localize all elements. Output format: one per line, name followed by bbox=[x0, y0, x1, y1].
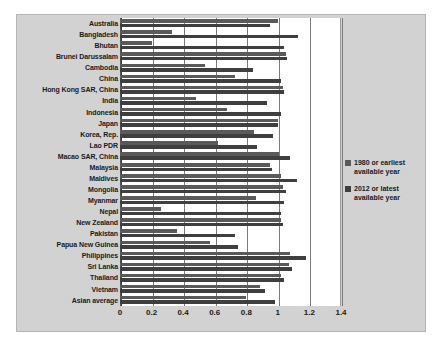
bar-vietnam-series-1 bbox=[120, 289, 265, 293]
legend-item-0: 1980 or earliest available year bbox=[345, 158, 425, 176]
bar-bhutan-series-1 bbox=[120, 46, 284, 50]
category-label-papua-new-guinea: Papua New Guinea bbox=[18, 239, 118, 250]
bar-vietnam-series-0 bbox=[120, 285, 260, 289]
bar-pakistan-series-1 bbox=[120, 234, 235, 238]
bar-row bbox=[120, 140, 341, 151]
category-label-japan: Japan bbox=[18, 118, 118, 129]
bar-row bbox=[120, 195, 341, 206]
bar-indonesia-series-0 bbox=[120, 108, 227, 112]
category-label-indonesia: Indonesia bbox=[18, 107, 118, 118]
category-label-india: India bbox=[18, 95, 118, 106]
bar-lao-pdr-series-1 bbox=[120, 145, 257, 149]
bar-row bbox=[120, 73, 341, 84]
bar-row bbox=[120, 40, 341, 51]
bar-row bbox=[120, 184, 341, 195]
bar-maldives-series-1 bbox=[120, 179, 297, 183]
x-tick-0.2: 0.2 bbox=[146, 308, 157, 317]
legend-swatch-icon bbox=[345, 186, 351, 192]
bar-row bbox=[120, 272, 341, 283]
category-label-korea-rep-: Korea, Rep. bbox=[18, 129, 118, 140]
bar-macao-sar-china-series-1 bbox=[120, 156, 290, 160]
bar-row bbox=[120, 239, 341, 250]
category-label-sri-lanka: Sri Lanka bbox=[18, 261, 118, 272]
bar-thailand-series-0 bbox=[120, 274, 281, 278]
bar-row bbox=[120, 107, 341, 118]
bar-row bbox=[120, 217, 341, 228]
bar-row bbox=[120, 129, 341, 140]
category-label-brunei-darussalam: Brunei Darussalam bbox=[18, 51, 118, 62]
bar-papua-new-guinea-series-1 bbox=[120, 245, 238, 249]
bar-india-series-0 bbox=[120, 97, 196, 101]
bar-row bbox=[120, 173, 341, 184]
bar-korea-rep--series-0 bbox=[120, 130, 254, 134]
category-label-australia: Australia bbox=[18, 18, 118, 29]
bar-row bbox=[120, 95, 341, 106]
category-label-mongolia: Mongolia bbox=[18, 184, 118, 195]
bar-maldives-series-0 bbox=[120, 174, 281, 178]
bar-mongolia-series-0 bbox=[120, 185, 283, 189]
category-axis-labels: AustraliaBangladeshBhutanBrunei Darussal… bbox=[18, 18, 118, 306]
bar-philippines-series-0 bbox=[120, 252, 290, 256]
bar-india-series-1 bbox=[120, 101, 267, 105]
bar-papua-new-guinea-series-0 bbox=[120, 241, 210, 245]
bar-new-zealand-series-1 bbox=[120, 223, 283, 227]
bar-japan-series-0 bbox=[120, 119, 278, 123]
bar-macao-sar-china-series-0 bbox=[120, 152, 279, 156]
chart-legend: 1980 or earliest available year2012 or l… bbox=[345, 158, 425, 210]
bar-new-zealand-series-0 bbox=[120, 218, 281, 222]
legend-item-1: 2012 or latest available year bbox=[345, 184, 425, 202]
bar-asian-average-series-1 bbox=[120, 300, 275, 304]
bar-row bbox=[120, 84, 341, 95]
category-label-macao-sar-china: Macao SAR, China bbox=[18, 151, 118, 162]
x-axis-tick-labels: 00.20.40.60.811.21.4 bbox=[120, 308, 341, 322]
bar-philippines-series-1 bbox=[120, 256, 306, 260]
bar-china-series-0 bbox=[120, 75, 235, 79]
bar-row bbox=[120, 284, 341, 295]
category-label-bangladesh: Bangladesh bbox=[18, 29, 118, 40]
bar-nepal-series-1 bbox=[120, 212, 281, 216]
bar-row bbox=[120, 51, 341, 62]
bar-mongolia-series-1 bbox=[120, 190, 286, 194]
legend-label: 1980 or earliest available year bbox=[354, 158, 405, 176]
category-label-pakistan: Pakistan bbox=[18, 228, 118, 239]
bar-malaysia-series-1 bbox=[120, 168, 272, 172]
bar-brunei-darussalam-series-0 bbox=[120, 52, 286, 56]
x-tick-0: 0 bbox=[118, 308, 122, 317]
bar-row bbox=[120, 250, 341, 261]
bar-nepal-series-0 bbox=[120, 207, 161, 211]
category-label-asian-average: Asian average bbox=[18, 295, 118, 306]
category-label-myanmar: Myanmar bbox=[18, 195, 118, 206]
category-label-nepal: Nepal bbox=[18, 206, 118, 217]
category-label-hong-kong-sar-china: Hong Kong SAR, China bbox=[18, 84, 118, 95]
category-label-cambodia: Cambodia bbox=[18, 62, 118, 73]
bar-chart-figure: AustraliaBangladeshBhutanBrunei Darussal… bbox=[0, 0, 441, 346]
bar-row bbox=[120, 162, 341, 173]
category-label-maldives: Maldives bbox=[18, 173, 118, 184]
category-label-philippines: Philippines bbox=[18, 250, 118, 261]
category-label-lao-pdr: Lao PDR bbox=[18, 140, 118, 151]
bar-hong-kong-sar-china-series-1 bbox=[120, 90, 284, 94]
bar-japan-series-1 bbox=[120, 123, 278, 127]
bar-row bbox=[120, 118, 341, 129]
gridline-1.4 bbox=[342, 18, 343, 306]
bar-australia-series-1 bbox=[120, 24, 270, 28]
bar-rows-container bbox=[120, 18, 341, 306]
bar-row bbox=[120, 206, 341, 217]
bar-row bbox=[120, 18, 341, 29]
category-label-vietnam: Vietnam bbox=[18, 284, 118, 295]
bar-korea-rep--series-1 bbox=[120, 134, 273, 138]
category-label-thailand: Thailand bbox=[18, 272, 118, 283]
bar-thailand-series-1 bbox=[120, 278, 284, 282]
bar-row bbox=[120, 151, 341, 162]
bar-sri-lanka-series-1 bbox=[120, 267, 292, 271]
bar-row bbox=[120, 295, 341, 306]
legend-swatch-icon bbox=[345, 160, 351, 166]
category-label-malaysia: Malaysia bbox=[18, 162, 118, 173]
x-tick-0.8: 0.8 bbox=[241, 308, 252, 317]
bar-cambodia-series-0 bbox=[120, 64, 205, 68]
bar-cambodia-series-1 bbox=[120, 68, 253, 72]
bar-myanmar-series-1 bbox=[120, 201, 284, 205]
bar-asian-average-series-0 bbox=[120, 296, 246, 300]
bar-row bbox=[120, 29, 341, 40]
x-tick-1.4: 1.4 bbox=[335, 308, 346, 317]
